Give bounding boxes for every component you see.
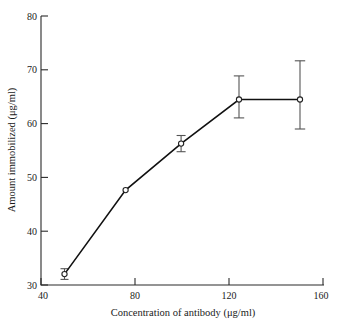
data-point-marker xyxy=(123,188,128,193)
data-point-marker xyxy=(62,272,67,277)
chart-figure: 80 70 60 50 40 30 40 80 120 160 xyxy=(0,0,339,325)
y-tick-label: 60 xyxy=(27,118,37,129)
x-tick-label: 160 xyxy=(314,290,329,301)
y-axis-ticks xyxy=(41,16,48,285)
x-tick-label: 80 xyxy=(130,290,140,301)
data-point-marker xyxy=(297,97,302,102)
data-point-markers xyxy=(62,97,303,277)
error-bars xyxy=(61,61,306,280)
data-point-marker xyxy=(236,97,241,102)
data-point-marker xyxy=(179,141,184,146)
line-chart-plot: 80 70 60 50 40 30 40 80 120 160 xyxy=(0,0,339,325)
data-series-line xyxy=(65,100,301,275)
y-axis-tick-labels: 80 70 60 50 40 30 xyxy=(27,11,37,291)
x-axis-tick-labels: 40 80 120 160 xyxy=(38,290,329,301)
y-tick-label: 70 xyxy=(27,64,37,75)
x-tick-label: 40 xyxy=(38,290,48,301)
x-axis-ticks xyxy=(41,278,323,285)
y-tick-label: 50 xyxy=(27,172,37,183)
y-tick-label: 80 xyxy=(27,11,37,22)
y-tick-label: 40 xyxy=(27,226,37,237)
x-tick-label: 120 xyxy=(222,290,237,301)
axis-lines xyxy=(41,16,324,285)
y-tick-label: 30 xyxy=(27,280,37,291)
y-axis-title: Amount immobilized (μg/ml) xyxy=(6,87,18,212)
x-axis-title: Concentration of antibody (μg/ml) xyxy=(111,307,256,319)
